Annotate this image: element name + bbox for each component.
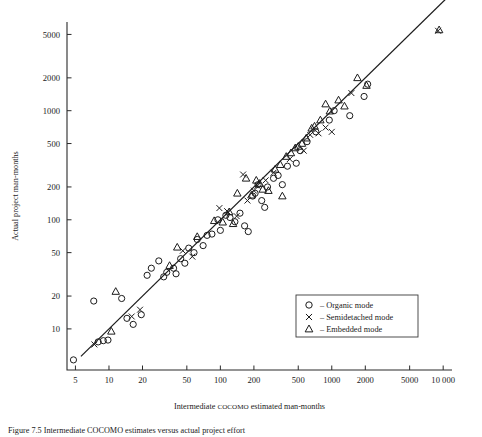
y-tick-label: 20: [51, 291, 60, 301]
y-tick-label: 2000: [43, 73, 60, 83]
y-tick-label: 5000: [43, 30, 60, 40]
chart-legend: – Organic mode– Semidetached mode– Embed…: [296, 295, 418, 337]
x-axis-title: Intermediate COCOMO estimated man-months: [174, 402, 325, 411]
y-axis-title: Actual project man-months: [11, 151, 20, 241]
x-tick-label: 500: [292, 375, 305, 385]
legend-entry-cross: – Semidetached mode: [319, 313, 394, 322]
x-tick-label: 1000: [323, 375, 340, 385]
y-tick-label: 100: [47, 215, 60, 225]
x-tick-label: 2000: [357, 375, 374, 385]
y-tick-label: 1000: [43, 106, 60, 116]
figure-caption-holder: Figure 7.5 Intermediate COCOMO estimates…: [8, 419, 478, 437]
x-tick-label: 20: [138, 375, 147, 385]
legend-entry-circle: – Organic mode: [319, 301, 374, 310]
legend-entry-triangle: – Embedded mode: [319, 325, 383, 334]
y-tick-label: 50: [51, 248, 60, 258]
y-tick-label: 500: [47, 139, 60, 149]
x-tick-label: 5: [73, 375, 77, 385]
x-tick-label: 100: [214, 375, 227, 385]
y-tick-label: 10: [51, 324, 60, 334]
figure-caption: Figure 7.5 Intermediate COCOMO estimates…: [8, 426, 245, 435]
x-tick-label: 200: [247, 375, 260, 385]
x-tick-label: 50: [183, 375, 192, 385]
x-tick-label: 10: [105, 375, 114, 385]
x-tick-label: 10 000: [431, 375, 455, 385]
x-tick-label: 5000: [401, 375, 418, 385]
y-tick-label: 200: [47, 182, 60, 192]
